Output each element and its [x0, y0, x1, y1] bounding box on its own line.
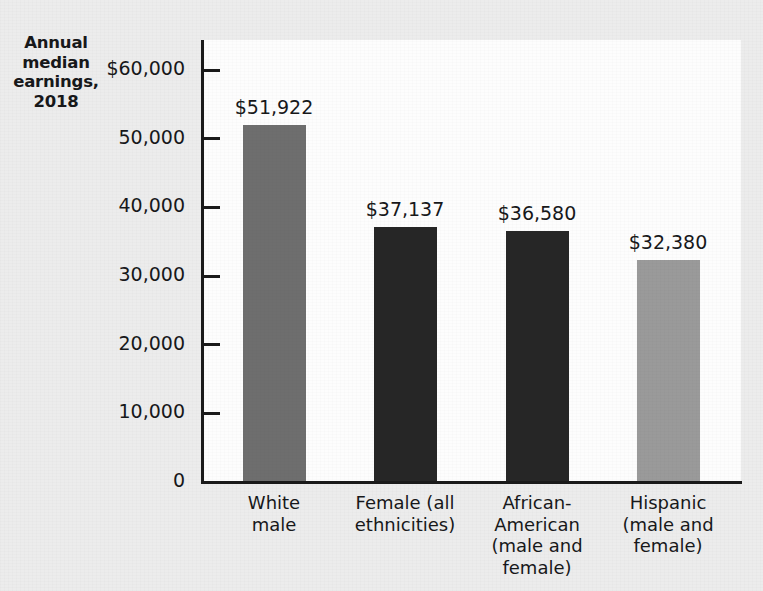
- y-axis-line: [201, 40, 204, 484]
- category-label-4-line-1: (male and: [593, 514, 743, 536]
- bar-value-label-1: $51,922: [204, 96, 344, 118]
- y-tick-60000: [203, 69, 220, 72]
- category-label-3-line-2: (male and: [462, 535, 612, 557]
- bar-2: [374, 227, 437, 482]
- category-label-3-line-0: African-: [462, 492, 612, 514]
- category-label-2-line-0: Female (all: [330, 492, 480, 514]
- category-label-1-line-1: male: [199, 514, 349, 536]
- category-label-4: Hispanic(male andfemale): [593, 492, 743, 557]
- bar-4: [637, 260, 700, 482]
- y-tick-10000: [203, 412, 220, 415]
- y-tick-label-0: 0: [30, 469, 185, 491]
- bar-3: [506, 231, 569, 482]
- bar-chart-figure: Annualmedianearnings,2018 $60,00050,0004…: [0, 0, 763, 591]
- y-tick-30000: [203, 275, 220, 278]
- y-tick-label-60000: $60,000: [36, 57, 185, 79]
- y-tick-label-40000: 40,000: [36, 194, 185, 216]
- category-label-3: African-American(male andfemale): [462, 492, 612, 578]
- y-tick-50000: [203, 137, 220, 140]
- category-label-3-line-3: female): [462, 557, 612, 579]
- y-tick-label-30000: 30,000: [36, 263, 185, 285]
- category-label-4-line-0: Hispanic: [593, 492, 743, 514]
- y-axis-title-line-3: 2018: [4, 92, 108, 112]
- bar-value-label-3: $36,580: [467, 202, 607, 224]
- category-label-2-line-1: ethnicities): [330, 514, 480, 536]
- category-label-1-line-0: White: [199, 492, 349, 514]
- x-axis-line: [201, 481, 742, 484]
- y-tick-40000: [203, 206, 220, 209]
- y-axis-title-line-0: Annual: [4, 33, 108, 53]
- bar-1: [243, 125, 306, 482]
- y-tick-20000: [203, 343, 220, 346]
- category-label-3-line-1: American: [462, 514, 612, 536]
- y-tick-label-50000: 50,000: [36, 126, 185, 148]
- bar-value-label-4: $32,380: [598, 231, 738, 253]
- category-label-2: Female (allethnicities): [330, 492, 480, 535]
- y-tick-label-20000: 20,000: [36, 332, 185, 354]
- bar-value-label-2: $37,137: [335, 198, 475, 220]
- y-tick-label-10000: 10,000: [36, 400, 185, 422]
- category-label-4-line-2: female): [593, 535, 743, 557]
- category-label-1: Whitemale: [199, 492, 349, 535]
